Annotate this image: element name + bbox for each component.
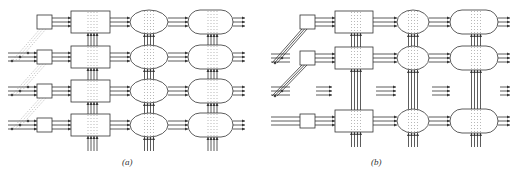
small-box — [300, 51, 315, 65]
junction-dot — [19, 56, 21, 58]
processing-block — [71, 46, 110, 68]
junction-dot — [27, 86, 29, 88]
junction-dot — [27, 120, 29, 122]
processing-block — [335, 110, 373, 132]
junction-dot — [11, 128, 13, 130]
dotted-connection — [18, 64, 46, 95]
ellipse-node — [397, 10, 429, 34]
stadium-node — [188, 79, 233, 103]
stadium-node — [188, 113, 233, 137]
processing-block — [71, 11, 110, 33]
stadium-node — [450, 109, 498, 133]
junction-dot — [19, 90, 21, 92]
dotted-connection — [18, 29, 46, 61]
junction-dot — [11, 94, 13, 96]
junction-dot — [27, 52, 29, 54]
panel-a — [8, 10, 245, 151]
small-box — [37, 118, 52, 132]
dotted-connection — [12, 98, 40, 129]
ellipse-node — [130, 10, 168, 34]
small-box — [37, 50, 52, 64]
stadium-node — [450, 46, 498, 70]
stadium-node — [188, 45, 233, 69]
junction-dot — [274, 62, 276, 64]
ellipse-node — [397, 46, 429, 70]
dotted-connection — [12, 29, 40, 61]
ellipse-node — [397, 109, 429, 133]
ellipse-node — [130, 45, 168, 69]
ellipse-node — [130, 113, 168, 137]
junction-dot — [19, 124, 21, 126]
dotted-connection — [18, 98, 46, 129]
panel-a-label: (a) — [122, 157, 133, 167]
junction-dot — [281, 90, 283, 92]
diagram-canvas — [0, 0, 515, 176]
panel-b — [271, 10, 510, 147]
small-box — [300, 15, 315, 29]
stadium-node — [450, 10, 498, 34]
dotted-connection — [12, 64, 40, 95]
processing-block — [71, 114, 110, 136]
processing-block — [335, 47, 373, 69]
stadium-node — [188, 10, 233, 34]
small-box — [37, 15, 52, 29]
processing-block — [71, 80, 110, 102]
junction-dot — [281, 57, 283, 59]
panel-b-label: (b) — [371, 157, 382, 167]
ellipse-node — [130, 79, 168, 103]
small-box — [300, 114, 315, 128]
junction-dot — [274, 95, 276, 97]
processing-block — [335, 11, 373, 33]
small-box — [37, 84, 52, 98]
junction-dot — [11, 60, 13, 62]
